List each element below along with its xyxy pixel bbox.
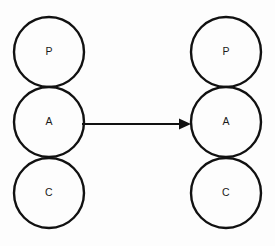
edge-left-a-to-right-a[interactable] (82, 119, 191, 130)
node-group-right-stack: P A C (191, 17, 261, 228)
node-left-c[interactable]: C (14, 158, 84, 228)
node-right-c[interactable]: C (191, 158, 261, 228)
node-left-a[interactable]: A (14, 87, 84, 157)
node-label: A (45, 115, 52, 127)
diagram-svg: P A C P A C (0, 0, 275, 246)
diagram-canvas: P A C P A C (0, 0, 275, 246)
node-left-p[interactable]: P (14, 17, 84, 87)
node-label: C (222, 186, 230, 198)
node-label: A (222, 115, 229, 127)
node-group-left-stack: P A C (14, 17, 84, 228)
node-right-p[interactable]: P (191, 17, 261, 87)
arrowhead-icon (179, 119, 191, 130)
node-right-a[interactable]: A (191, 87, 261, 157)
node-label: C (45, 186, 53, 198)
node-label: P (222, 45, 229, 57)
node-label: P (45, 45, 52, 57)
